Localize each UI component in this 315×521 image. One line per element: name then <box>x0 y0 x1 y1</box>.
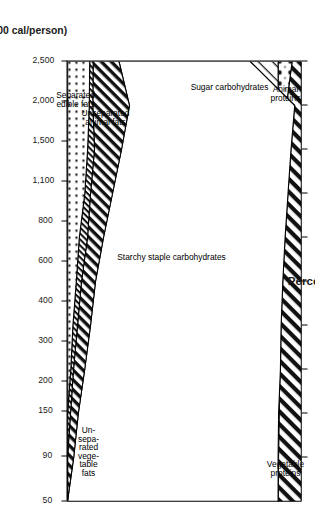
percent-tick-30 <box>301 368 307 369</box>
calorie-tick-label-1: 2,000 <box>32 96 54 105</box>
calorie-tick-label-8: 200 <box>38 376 53 385</box>
calorie-tick-label-4: 800 <box>38 216 53 225</box>
calorie-tick-7 <box>61 340 67 341</box>
calorie-tick-label-9: 150 <box>38 406 53 415</box>
calorie-tick-label-2: 1,500 <box>32 136 54 145</box>
percent-tick-10 <box>301 456 307 457</box>
calorie-axis-title: uct (1000 cal/person) <box>0 25 67 36</box>
percent-tick-90 <box>301 104 307 105</box>
calorie-tick-0 <box>61 60 67 61</box>
figure: Animalproteins Vegetableproteins Sugar c… <box>0 0 315 521</box>
calorie-tick-10 <box>61 455 67 456</box>
calorie-tick-label-0: 2,500 <box>32 56 54 65</box>
band-label-unseparated-animal-fats: Unseparatedanimal fats <box>81 109 129 128</box>
calorie-tick-label-3: 1,100 <box>32 176 54 185</box>
percent-tick-80 <box>301 148 307 149</box>
calorie-tick-6 <box>61 300 67 301</box>
band-label-animal-proteins: Animalproteins <box>270 85 300 104</box>
calorie-tick-label-6: 400 <box>38 296 53 305</box>
calorie-tick-label-7: 300 <box>38 336 53 345</box>
rotated-figure-stage: Animalproteins Vegetableproteins Sugar c… <box>0 0 315 521</box>
calorie-tick-11 <box>61 500 67 501</box>
percent-tick-100 <box>301 60 307 61</box>
percent-tick-40 <box>301 324 307 325</box>
calorie-tick-4 <box>61 220 67 221</box>
percentage-axis-title: Percentage of total calories <box>287 274 315 287</box>
calorie-tick-2 <box>61 140 67 141</box>
calorie-axis-line <box>66 60 67 500</box>
percent-tick-20 <box>301 412 307 413</box>
calorie-tick-label-11: 50 <box>42 496 52 505</box>
calorie-tick-3 <box>61 180 67 181</box>
band-label-starchy-staple-carbohydrates: Starchy staple carbohydrates <box>117 252 225 261</box>
calorie-tick-8 <box>61 380 67 381</box>
band-label-vegetable-proteins: Vegetableproteins <box>266 460 303 479</box>
calorie-tick-9 <box>61 410 67 411</box>
band-label-unseparated-vegetable-fats: Un-sepa-ratedvege-tablefats <box>78 425 99 477</box>
percent-tick-60 <box>301 236 307 237</box>
percent-tick-70 <box>301 192 307 193</box>
band-label-sugar-carbohydrates: Sugar carbohydrates <box>190 82 268 91</box>
calorie-tick-label-5: 600 <box>38 256 53 265</box>
calorie-tick-5 <box>61 260 67 261</box>
plot-area: Animalproteins Vegetableproteins Sugar c… <box>67 60 301 500</box>
calorie-tick-1 <box>61 100 67 101</box>
calorie-tick-label-10: 90 <box>42 451 52 460</box>
